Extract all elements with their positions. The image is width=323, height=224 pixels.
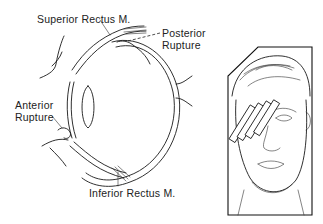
upper-eyelid bbox=[40, 36, 64, 78]
label-inferior-rectus: Inferior Rectus M. bbox=[89, 188, 175, 199]
label-anterior-rupture-line1: Anterior bbox=[15, 100, 53, 111]
label-posterior-rupture-line1: Posterior bbox=[162, 28, 206, 39]
label-superior-rectus: Superior Rectus M. bbox=[37, 14, 130, 25]
lens bbox=[82, 86, 94, 128]
leader-posterior-rupture bbox=[128, 33, 160, 41]
posterior-rupture-tear bbox=[117, 41, 150, 64]
label-anterior-rupture-line2: Rupture bbox=[15, 112, 54, 123]
inferior-rectus-muscle bbox=[70, 142, 126, 178]
label-posterior-rupture-line2: Rupture bbox=[162, 40, 201, 51]
globe-outline bbox=[82, 40, 180, 186]
anterior-rupture-tissue bbox=[58, 128, 71, 139]
superior-rectus-muscle bbox=[72, 26, 144, 70]
lower-eyelid bbox=[42, 139, 68, 166]
eye-rupture-figure: Superior Rectus M. Posterior Rupture Ant… bbox=[0, 0, 323, 224]
inferior-rectus-fibers bbox=[112, 166, 130, 181]
